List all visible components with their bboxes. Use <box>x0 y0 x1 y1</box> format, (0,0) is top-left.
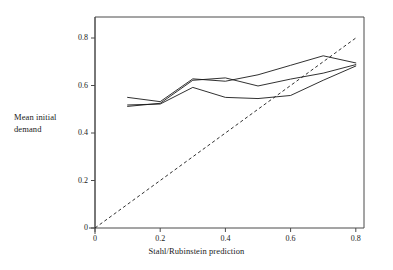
chart-figure: Mean initial demand Stahl/Rubinstein pre… <box>0 0 393 270</box>
y-axis-title-line-1: Mean initial <box>14 112 92 124</box>
x-tick-label: 0 <box>93 234 97 243</box>
y-tick-label: 0.2 <box>78 176 88 185</box>
plot-frame-path <box>95 17 364 228</box>
x-tick-label: 0.8 <box>351 234 361 243</box>
y-tick-label: 0 <box>84 223 88 232</box>
forty-five-degree-reference-line <box>95 38 356 228</box>
y-tick-label: 0.6 <box>78 81 88 90</box>
y-tick-label: 0.8 <box>78 33 88 42</box>
x-tick-label: 0.2 <box>155 234 165 243</box>
data-series-line <box>128 66 356 105</box>
y-tick-label: 0.4 <box>78 128 88 137</box>
line-chart-plot <box>0 0 393 270</box>
x-tick-label: 0.4 <box>220 234 230 243</box>
x-axis-ticks <box>95 228 356 232</box>
x-axis-title: Stahl/Rubinstein prediction <box>0 246 393 256</box>
plot-frame <box>95 17 364 228</box>
x-tick-label: 0.6 <box>286 234 296 243</box>
